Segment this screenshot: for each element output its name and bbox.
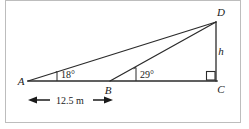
height-label-h: h	[218, 45, 224, 57]
geometry-diagram: A B C D 18° 29° h 12.5 m	[0, 0, 249, 129]
figure-frame: A B C D 18° 29° h 12.5 m	[0, 0, 249, 129]
vertex-label-D: D	[216, 6, 225, 18]
dimension-label-AB: 12.5 m	[56, 95, 84, 106]
vertex-label-B: B	[105, 84, 112, 96]
vertex-label-A: A	[17, 75, 25, 87]
angle-arc-at-A-curve	[56, 72, 57, 73]
angle-label-at-B: 29°	[140, 69, 154, 80]
page-border	[6, 1, 241, 123]
vertex-label-C: C	[217, 83, 225, 95]
angle-label-at-A: 18°	[61, 69, 75, 80]
